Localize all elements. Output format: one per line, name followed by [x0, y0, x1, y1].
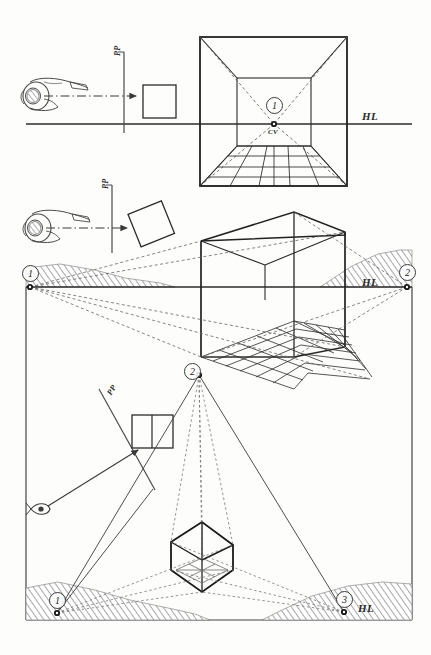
- object-square-plan-middle: [128, 201, 174, 247]
- observer-head-plan-top: [21, 78, 88, 110]
- vanishing-point-1-marker-bottom: 1: [49, 592, 66, 609]
- convergence-lines-bottom-solid: [57, 375, 344, 613]
- convergence-lines-middle: [30, 212, 407, 379]
- floor-grid-top: [200, 146, 347, 186]
- object-square-plan-top: [143, 85, 176, 118]
- vanishing-point-2-marker-bottom: 2: [184, 363, 201, 380]
- vanishing-point-2-marker-middle: 2: [399, 264, 416, 281]
- object-plan-bottom: [132, 415, 173, 448]
- vanishing-point-1-marker-middle: 1: [22, 265, 39, 282]
- panel-one-point: [21, 37, 412, 186]
- cv-label: CV: [268, 128, 278, 136]
- perspective-plate: PP HL CV 1 PP HL 1 2 PP HL 1 2 3: [0, 0, 431, 655]
- picture-plane-label-middle: PP: [101, 178, 110, 189]
- convergence-lines-bottom-dotted: [57, 375, 344, 613]
- eye-symbol-bottom: [26, 503, 50, 515]
- horizon-label-top: HL: [362, 110, 378, 122]
- horizon-label-bottom: HL: [358, 602, 374, 614]
- floor-grid-middle: [201, 321, 372, 389]
- vanishing-point-3-marker-bottom: 3: [336, 591, 353, 608]
- vanishing-point-1-marker-top: 1: [266, 97, 283, 114]
- picture-plane-label-top: PP: [113, 45, 122, 56]
- panel-two-point: [23, 185, 412, 620]
- perspective-drawing-canvas: [0, 0, 431, 655]
- room-interior-two-point: [201, 212, 372, 389]
- horizon-label-middle: HL: [362, 276, 378, 288]
- observer-head-plan-middle: [23, 210, 90, 242]
- panel-three-point: [26, 372, 412, 620]
- sight-line-bottom: [48, 450, 138, 506]
- picture-plane-bottom: [99, 389, 155, 490]
